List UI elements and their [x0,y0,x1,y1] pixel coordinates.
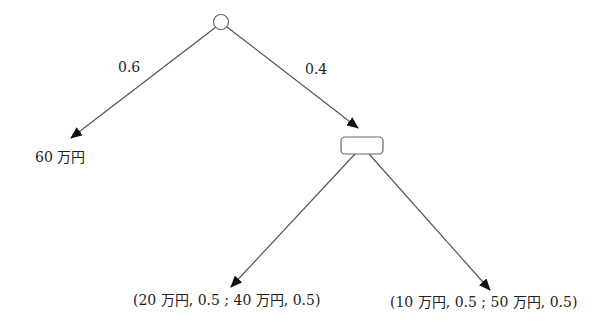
outcome-lottery-b: (10 万円, 0.5 ; 50 万円, 0.5) [390,295,577,309]
edge-root-left [71,27,216,138]
edge-choice-left [231,154,355,287]
edge-root-right [227,27,358,128]
tree-diagram [0,0,610,335]
chance-node-root [214,15,229,30]
outcome-lottery-a: (20 万円, 0.5 ; 40 万円, 0.5) [133,293,320,307]
choice-node [341,137,383,154]
outcome-60man: 60 万円 [35,150,85,164]
probability-label-left: 0.6 [118,60,140,74]
edge-choice-right [369,154,490,290]
probability-label-right: 0.4 [305,62,327,76]
